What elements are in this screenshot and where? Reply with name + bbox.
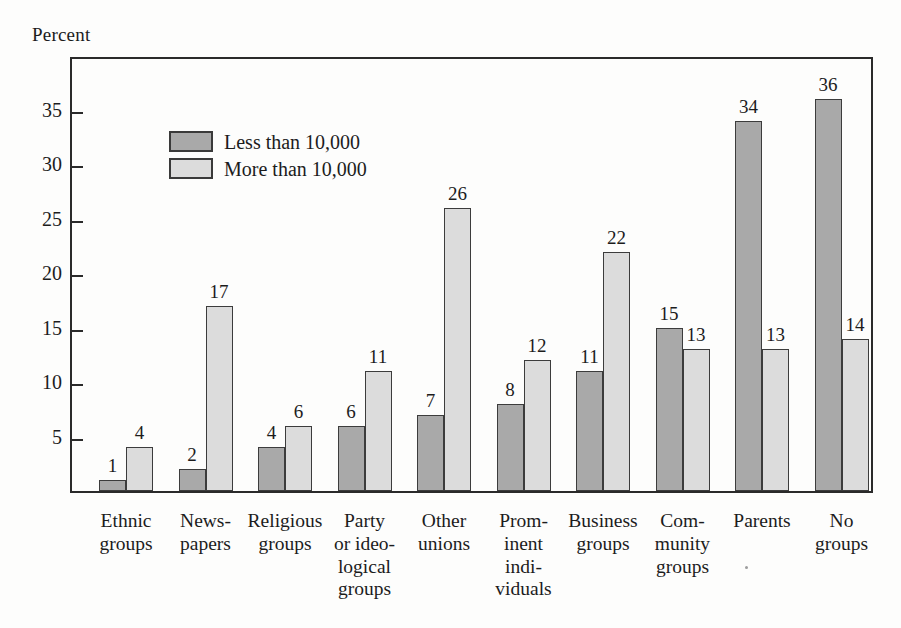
- scan-speck: [745, 566, 748, 569]
- x-axis-label-line: groups: [631, 556, 735, 579]
- y-axis-tick-label: 10: [42, 372, 62, 392]
- x-axis-label-line: groups: [790, 533, 894, 556]
- x-axis-label-line: logical: [313, 556, 417, 579]
- legend-label-less-than-10000: Less than 10,000: [224, 132, 360, 152]
- bar-chart-figure: Percent 3530252015105 Less than 10,000 M…: [0, 0, 901, 628]
- x-axis-label-line: viduals: [472, 578, 576, 601]
- x-axis-category-label: Nogroups: [790, 510, 894, 556]
- y-axis-tick-label: 5: [52, 427, 62, 447]
- x-axis-label-line: No: [790, 510, 894, 533]
- legend-swatch-more-than-10000: [169, 158, 213, 179]
- legend-swatch-less-than-10000: [169, 131, 213, 152]
- y-axis-tick: [72, 384, 83, 386]
- y-axis-tick-label: 25: [42, 209, 62, 229]
- legend-item-less-than-10000: Less than 10,000: [169, 131, 367, 152]
- y-axis-tick: [72, 439, 83, 441]
- x-axis-label-line: groups: [313, 578, 417, 601]
- y-axis-tick-label: 15: [42, 318, 62, 338]
- x-axis-category-labels: EthnicgroupsNews-papersReligiousgroupsPa…: [0, 500, 901, 628]
- y-axis-tick-label: 30: [42, 154, 62, 174]
- y-axis-tick-label: 20: [42, 263, 62, 283]
- x-axis-label-line: munity: [631, 533, 735, 556]
- y-axis-tick: [72, 112, 83, 114]
- legend-item-more-than-10000: More than 10,000: [169, 158, 367, 179]
- y-axis-tick: [72, 221, 83, 223]
- x-axis-label-line: indi-: [472, 556, 576, 579]
- y-axis-tick-label: 35: [42, 100, 62, 120]
- y-axis-tick: [72, 166, 83, 168]
- y-axis-tick: [72, 275, 83, 277]
- legend: Less than 10,000 More than 10,000: [169, 131, 367, 179]
- plot-frame: Less than 10,000 More than 10,000: [70, 57, 873, 493]
- legend-label-more-than-10000: More than 10,000: [224, 159, 367, 179]
- y-axis-tick: [72, 330, 83, 332]
